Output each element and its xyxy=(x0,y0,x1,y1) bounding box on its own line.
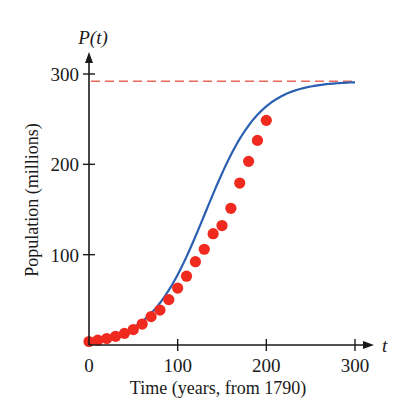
data-point xyxy=(154,305,165,316)
x-tick-label: 200 xyxy=(252,355,281,376)
y-axis-title: Population (millions) xyxy=(22,123,43,277)
data-point xyxy=(216,220,227,231)
y-variable-label: P(t) xyxy=(77,27,108,49)
data-point xyxy=(208,228,219,239)
axes xyxy=(83,52,374,351)
y-axis-arrow-icon xyxy=(85,52,93,63)
data-point xyxy=(172,282,183,293)
x-tick-label: 0 xyxy=(84,355,94,376)
census-data-points xyxy=(83,115,272,347)
data-point xyxy=(163,294,174,305)
x-variable-label: t xyxy=(382,335,388,356)
data-point xyxy=(252,135,263,146)
data-point xyxy=(190,256,201,267)
x-axis-title: Time (years, from 1790) xyxy=(130,378,306,399)
data-point xyxy=(243,156,254,167)
x-tick-label: 100 xyxy=(163,355,192,376)
y-tick-label: 100 xyxy=(51,245,80,266)
x-tick-label: 300 xyxy=(341,355,370,376)
y-tick-label: 200 xyxy=(51,154,80,175)
data-point xyxy=(137,318,148,329)
logistic-population-chart: 0100200300100200300tP(t)Time (years, fro… xyxy=(0,0,409,405)
data-point xyxy=(261,115,272,126)
data-point xyxy=(199,244,210,255)
y-tick-label: 300 xyxy=(51,64,80,85)
data-point xyxy=(234,177,245,188)
data-point xyxy=(181,271,192,282)
logistic-curve xyxy=(89,82,355,341)
x-axis-arrow-icon xyxy=(363,341,374,349)
logistic-curve-path xyxy=(89,82,355,341)
data-point xyxy=(225,203,236,214)
